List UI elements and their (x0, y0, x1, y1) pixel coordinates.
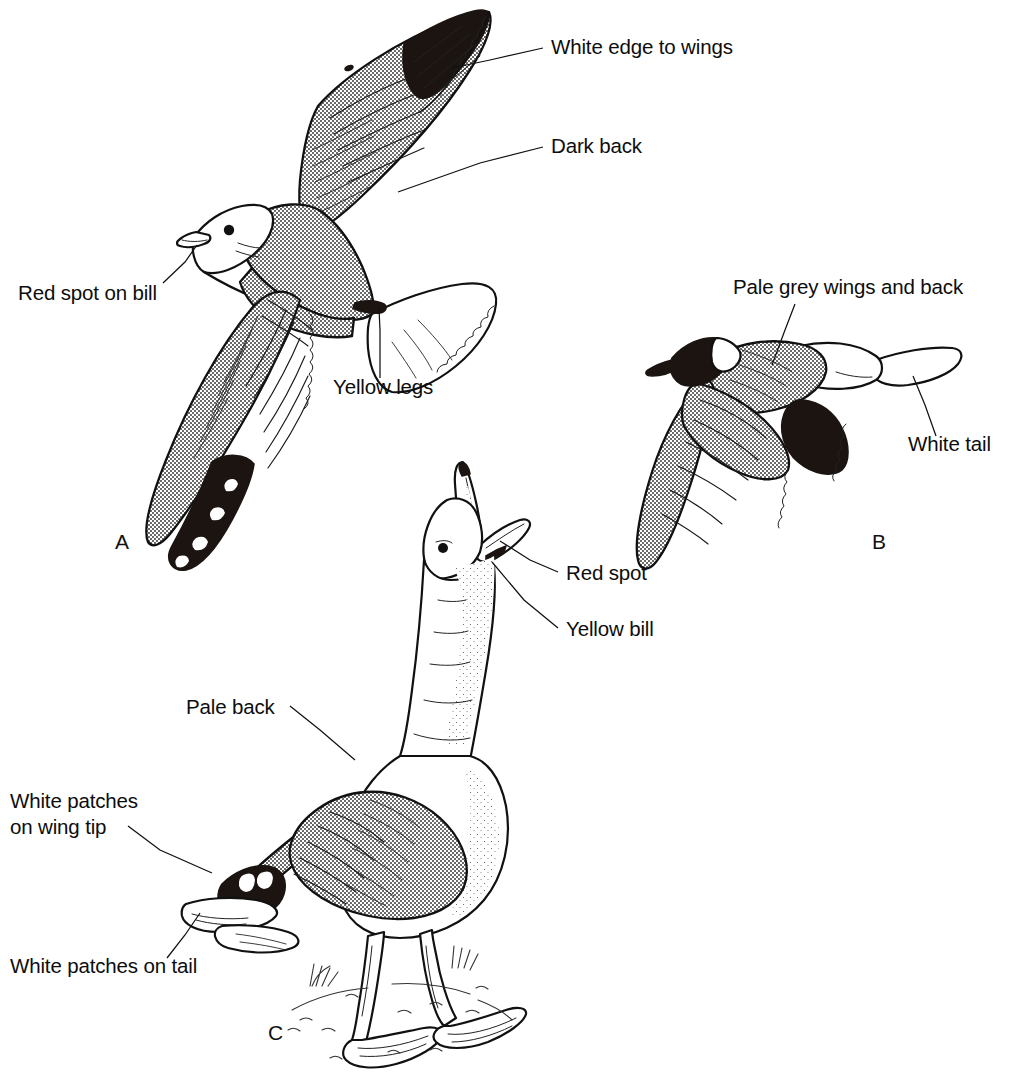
bird-c-eye (438, 543, 448, 553)
panel-letter-b: B (872, 530, 886, 553)
label-white-edge-to-wings: White edge to wings (551, 35, 733, 58)
figure-canvas: A White edge to wings Dark back Red spot… (0, 0, 1015, 1083)
label-yellow-legs: Yellow legs (333, 375, 433, 398)
panel-letter-c: C (268, 1021, 283, 1044)
label-red-spot-on-bill: Red spot on bill (18, 281, 157, 304)
label-dark-back: Dark back (551, 134, 643, 157)
label-white-patches-on-tail: White patches on tail (10, 954, 197, 977)
label-pale-back: Pale back (186, 695, 276, 718)
panel-letter-a: A (115, 530, 129, 553)
label-yellow-bill: Yellow bill (566, 617, 654, 640)
label-white-tail: White tail (908, 432, 991, 455)
label-pale-grey-wings-and-back: Pale grey wings and back (733, 275, 964, 298)
gull-identification-figure: A White edge to wings Dark back Red spot… (0, 0, 1015, 1083)
bird-a-eye (224, 225, 234, 235)
label-white-patches-on-wing-tip-line2: on wing tip (10, 815, 106, 838)
label-red-spot: Red spot (566, 561, 647, 584)
label-white-patches-on-wing-tip-line1: White patches (10, 789, 138, 812)
